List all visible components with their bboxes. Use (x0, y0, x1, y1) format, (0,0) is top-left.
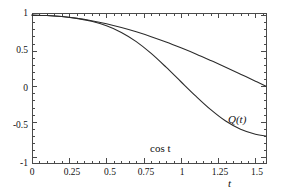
x-tick-label-0_75: 0.75 (131, 168, 161, 178)
y-tick-label-neg0_5: -0.5 (0, 121, 28, 131)
x-axis-label: t (228, 178, 231, 189)
y-tick-label-1: 1 (6, 9, 28, 19)
x-tick-label-1: 1 (172, 168, 192, 178)
x-tick-label-0_25: 0.25 (57, 168, 87, 178)
series-label-cos: cos t (150, 143, 170, 154)
series-path-cos (32, 15, 266, 86)
x-tick-label-0_5: 0.5 (97, 168, 123, 178)
y-tick-label-0_5: 0.5 (2, 46, 28, 56)
x-tick-label-0: 0 (22, 168, 42, 178)
x-tick-label-1_5: 1.5 (244, 168, 270, 178)
y-tick-label-0: 0 (6, 84, 28, 94)
series-label-q: Q(t) (228, 114, 246, 125)
figure-container: 1 0.5 0 -0.5 -1 0 0.25 0.5 0.75 1 1.25 1… (0, 0, 291, 196)
